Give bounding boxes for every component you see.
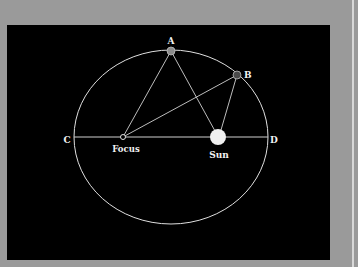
label-focus: Focus (112, 144, 140, 154)
label-d: D (270, 135, 278, 145)
orbit-diagram: A B C D Focus Sun (0, 0, 358, 267)
line-b-to-sun (221, 75, 237, 130)
planet-b-icon (233, 71, 241, 79)
planet-a-icon (167, 47, 175, 55)
label-sun: Sun (209, 150, 229, 160)
sun-icon (210, 129, 226, 145)
focus-point-icon (121, 135, 126, 140)
label-c: C (63, 135, 70, 145)
label-b: B (244, 70, 252, 80)
label-a: A (167, 36, 176, 46)
